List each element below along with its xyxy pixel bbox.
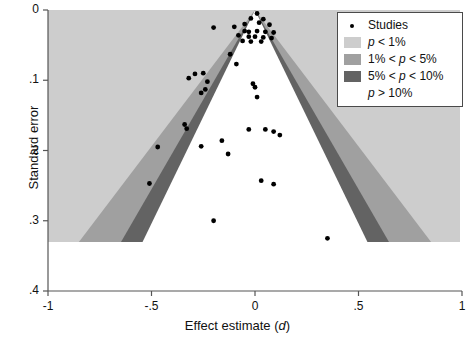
y-tick-label: .4 (5, 283, 39, 297)
study-point (211, 25, 216, 30)
study-point (242, 22, 247, 27)
study-point (199, 144, 204, 149)
funnel-plot-figure: -1-.50.51 0.1.2.3.4 Effect estimate (d) … (0, 0, 475, 341)
study-point (257, 20, 262, 25)
study-point (255, 29, 260, 34)
study-point (271, 129, 276, 134)
study-point (277, 133, 282, 138)
legend-swatch-icon (344, 71, 361, 82)
study-point (155, 145, 160, 150)
x-tick-label: -1 (28, 299, 68, 313)
study-point (267, 22, 272, 27)
legend-label-italic: p (399, 69, 406, 83)
legend-label-italic: p (368, 35, 375, 49)
study-point (184, 126, 189, 131)
study-point (253, 85, 258, 90)
x-tick-label: .5 (339, 299, 379, 313)
legend-label: 1% < p < 5% (368, 53, 437, 66)
study-point (263, 127, 268, 132)
study-point (259, 39, 264, 44)
legend-label: p > 10% (368, 87, 412, 100)
study-point (228, 52, 233, 57)
study-point (147, 181, 152, 186)
study-point (261, 17, 266, 22)
legend-swatch-icon (344, 37, 361, 48)
legend-label-tail: < 1% (375, 35, 406, 49)
study-point (248, 39, 253, 44)
study-point (255, 11, 260, 16)
legend-swatch-icon (344, 88, 361, 99)
legend-label-lead: 1% < (368, 52, 399, 66)
x-tick-label: 1 (442, 299, 475, 313)
study-point (246, 34, 251, 39)
legend: Studiesp < 1%1% < p < 5%5% < p < 10%p > … (337, 12, 463, 107)
y-axis-title: Standard error (26, 48, 41, 248)
legend-label-tail: > 10% (375, 86, 413, 100)
x-axis-title: Effect estimate (d) (0, 318, 475, 333)
study-point (186, 76, 191, 81)
study-point (219, 138, 224, 143)
legend-label-tail: < 10% (406, 69, 444, 83)
legend-label-lead: 5% < (368, 69, 399, 83)
study-point (325, 236, 330, 241)
legend-row: 5% < p < 10% (344, 68, 457, 85)
x-tick-label: 0 (235, 299, 275, 313)
study-point (193, 72, 198, 77)
study-point (261, 35, 266, 40)
study-point (234, 62, 239, 67)
study-point (203, 87, 208, 92)
study-point (271, 182, 276, 187)
study-point (246, 29, 251, 34)
study-point (269, 36, 274, 41)
legend-label-italic: p (368, 86, 375, 100)
study-point (211, 218, 216, 223)
x-tick-label: -.5 (132, 299, 172, 313)
legend-row: 1% < p < 5% (344, 51, 457, 68)
study-point (201, 71, 206, 76)
legend-row: p > 10% (344, 85, 457, 102)
legend-row: Studies (344, 17, 457, 34)
study-point (232, 24, 237, 29)
y-tick-label: 0 (5, 2, 39, 16)
study-point (259, 178, 264, 183)
study-point (271, 30, 276, 35)
study-point (199, 90, 204, 95)
x-axis-ticks (48, 291, 462, 296)
study-point (253, 34, 258, 39)
study-point (236, 33, 241, 38)
y-axis-ticks (43, 10, 48, 291)
legend-label-tail: < 5% (406, 52, 437, 66)
study-point (205, 79, 210, 84)
legend-label: Studies (368, 19, 408, 32)
legend-label: p < 1% (368, 36, 406, 49)
study-point (242, 29, 247, 34)
x-axis-title-tail: ) (286, 318, 290, 333)
legend-label: 5% < p < 10% (368, 70, 443, 83)
study-point (240, 39, 245, 44)
legend-row: p < 1% (344, 34, 457, 51)
study-point (255, 95, 260, 100)
study-point (246, 127, 251, 132)
study-point (226, 152, 231, 157)
study-point (182, 122, 187, 127)
x-axis-title-lead: Effect estimate ( (185, 318, 279, 333)
study-point (263, 29, 268, 34)
x-axis-title-italic: d (279, 318, 286, 333)
legend-label-italic: p (399, 52, 406, 66)
study-point (248, 16, 253, 21)
legend-marker-icon (344, 20, 361, 31)
legend-swatch-icon (344, 54, 361, 65)
